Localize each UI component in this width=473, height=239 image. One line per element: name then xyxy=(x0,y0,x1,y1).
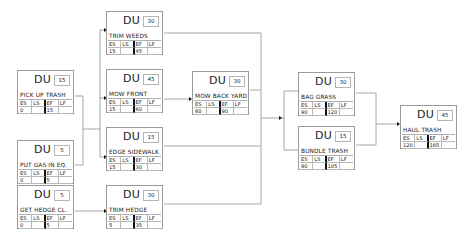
duration-row: DU 45 xyxy=(123,73,159,85)
ls-value xyxy=(313,163,326,170)
activity-node-mow-front[interactable]: DU 45 MOW FRONT ES LS EF LF 15 60 xyxy=(106,69,163,113)
du-label: DU xyxy=(34,144,51,156)
ls-value xyxy=(121,106,134,113)
ef-label: EF xyxy=(429,135,442,142)
schedule-grid: ES LS EF LF 60 90 xyxy=(194,100,247,114)
ef-label: EF xyxy=(135,99,148,106)
activity-node-mow-back-yard[interactable]: DU 30 MOW BACK YARD ES LS EF LF 60 90 xyxy=(192,71,249,115)
task-name: TRIM WEEDS xyxy=(109,33,148,39)
ef-value: 5 xyxy=(46,222,59,229)
schedule-grid: ES LS EF LF 15 60 xyxy=(108,98,161,112)
lf-value xyxy=(442,142,455,149)
es-label: ES xyxy=(402,135,415,142)
task-name: BUNDLE TRASH xyxy=(301,148,348,154)
schedule-grid: ES LS EF LF 0 5 xyxy=(19,214,72,228)
lf-label: LF xyxy=(340,156,353,163)
es-label: ES xyxy=(108,99,121,106)
ls-label: LS xyxy=(121,157,134,164)
du-value: 15 xyxy=(335,131,351,142)
activity-node-bundle-trash[interactable]: DU 15 BUNDLE TRASH ES LS EF LF 90 105 xyxy=(298,126,355,170)
lf-value xyxy=(340,109,353,116)
es-value: 120 xyxy=(402,142,415,149)
task-name: EDGE SIDEWALK xyxy=(109,149,159,155)
du-value: 45 xyxy=(143,74,159,85)
task-name: MOW BACK YARD xyxy=(195,93,247,99)
ls-label: LS xyxy=(313,102,326,109)
es-value: 15 xyxy=(108,106,121,113)
ef-label: EF xyxy=(221,101,234,108)
ls-value xyxy=(121,48,134,55)
ls-value xyxy=(121,164,134,171)
du-value: 30 xyxy=(143,190,159,201)
schedule-grid: ES LS EF LF 90 120 xyxy=(300,101,353,115)
du-label: DU xyxy=(123,131,140,143)
lf-label: LF xyxy=(234,101,247,108)
ef-value: 35 xyxy=(135,222,148,229)
activity-node-trim-weeds[interactable]: DU 30 TRIM WEEDS ES LS EF LF 15 45 xyxy=(106,11,163,55)
ls-value xyxy=(32,107,45,114)
ls-label: LS xyxy=(313,156,326,163)
activity-node-haul-trash[interactable]: DU 45 HAUL TRASH ES LS EF LF 120 165 xyxy=(400,105,457,149)
ls-value xyxy=(32,177,45,184)
lf-value xyxy=(234,108,247,115)
es-label: ES xyxy=(19,100,32,107)
schedule-grid: ES LS EF LF 120 165 xyxy=(402,134,455,148)
activity-node-pick-up-trash[interactable]: DU 15 PICK UP TRASH ES LS EF LF 0 15 xyxy=(17,70,74,114)
schedule-grid: ES LS EF LF 15 30 xyxy=(108,156,161,170)
du-label: DU xyxy=(123,15,140,27)
task-name: PICK UP TRASH xyxy=(20,92,66,98)
activity-node-bag-grass[interactable]: DU 30 BAG GRASS ES LS EF LF 90 120 xyxy=(298,72,355,116)
wire-pick-up-trash xyxy=(75,96,83,129)
es-label: ES xyxy=(108,41,121,48)
es-label: ES xyxy=(19,215,32,222)
duration-row: DU 15 xyxy=(34,74,70,86)
schedule-grid: ES LS EF LF 15 45 xyxy=(108,40,161,54)
es-value: 90 xyxy=(300,163,313,170)
lf-label: LF xyxy=(59,170,72,177)
task-name: MOW FRONT xyxy=(109,91,147,97)
schedule-grid: ES LS EF LF 0 15 xyxy=(19,99,72,113)
activity-node-edge-sidewalk[interactable]: DU 15 EDGE SIDEWALK ES LS EF LF 15 30 xyxy=(106,127,163,171)
du-value: 30 xyxy=(335,77,351,88)
ef-label: EF xyxy=(46,170,59,177)
ls-value xyxy=(121,222,134,229)
ef-value: 30 xyxy=(135,164,148,171)
duration-row: DU 5 xyxy=(34,144,70,156)
du-value: 5 xyxy=(54,145,70,156)
activity-node-trim-hedge[interactable]: DU 30 TRIM HEDGE ES LS EF LF 5 35 xyxy=(106,185,163,229)
es-value: 5 xyxy=(108,222,121,229)
task-name: BAG GRASS xyxy=(301,94,336,100)
es-value: 90 xyxy=(300,109,313,116)
lf-label: LF xyxy=(59,215,72,222)
lf-label: LF xyxy=(148,99,161,106)
ls-label: LS xyxy=(121,215,134,222)
es-label: ES xyxy=(194,101,207,108)
ls-label: LS xyxy=(121,41,134,48)
activity-node-put-gas[interactable]: DU 5 PUT GAS IN EQ. ES LS EF LF 0 5 xyxy=(17,140,74,184)
ls-value xyxy=(207,108,220,115)
ls-value xyxy=(313,109,326,116)
duration-row: DU 30 xyxy=(123,15,159,27)
du-value: 15 xyxy=(143,132,159,143)
es-value: 15 xyxy=(108,48,121,55)
arrow-icon xyxy=(279,116,282,120)
ls-label: LS xyxy=(207,101,220,108)
lf-label: LF xyxy=(148,41,161,48)
task-name: PUT GAS IN EQ. xyxy=(20,162,67,168)
du-value: 5 xyxy=(54,190,70,201)
ls-value xyxy=(415,142,428,149)
lf-value xyxy=(148,106,161,113)
duration-row: DU 30 xyxy=(209,75,245,87)
lf-value xyxy=(148,164,161,171)
task-name: TRIM HEDGE xyxy=(109,207,147,213)
lf-value xyxy=(59,222,72,229)
du-label: DU xyxy=(34,189,51,201)
es-label: ES xyxy=(300,156,313,163)
es-value: 15 xyxy=(108,164,121,171)
activity-node-get-hedge[interactable]: DU 5 GET HEDGE CL. ES LS EF LF 0 5 xyxy=(17,185,74,229)
du-label: DU xyxy=(315,130,332,142)
duration-row: DU 30 xyxy=(123,189,159,201)
duration-row: DU 5 xyxy=(34,189,70,201)
lf-value xyxy=(59,177,72,184)
ls-label: LS xyxy=(32,215,45,222)
